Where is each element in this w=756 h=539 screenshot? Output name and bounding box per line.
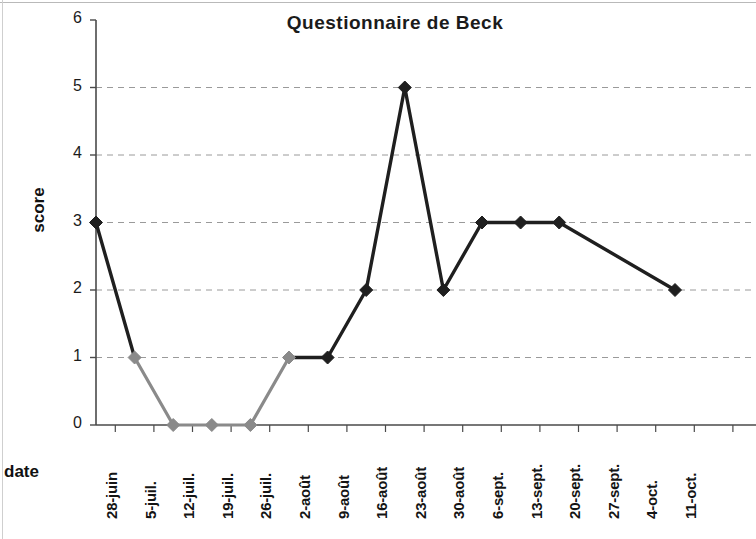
y-tick-label: 1: [56, 347, 82, 365]
data-point-marker: [514, 216, 527, 229]
x-axis-title: date: [4, 462, 39, 482]
data-point-marker: [90, 216, 103, 229]
x-tick-label: 16-août: [373, 467, 390, 519]
y-tick-label: 3: [56, 212, 82, 230]
x-tick-label: 26-juil.: [257, 473, 274, 519]
series-segment: [366, 88, 405, 291]
x-tick-label: 5-juil.: [142, 481, 159, 519]
x-tick-label: 23-août: [412, 467, 429, 519]
x-tick-label: 4-oct.: [643, 480, 660, 519]
y-axis-title: score: [29, 165, 49, 255]
plot-area: [0, 0, 756, 539]
data-point-marker: [283, 351, 296, 364]
chart-canvas: Questionnaire de Beck score date 0123456…: [0, 0, 756, 539]
data-point-marker: [128, 351, 141, 364]
y-tick-label: 6: [56, 9, 82, 27]
series-segment: [328, 290, 367, 358]
y-tick-label: 2: [56, 279, 82, 297]
chart-title: Questionnaire de Beck: [230, 12, 560, 34]
y-tick-label: 5: [56, 77, 82, 95]
x-tick-label: 9-août: [335, 475, 352, 519]
data-point-marker: [167, 419, 180, 432]
series-segment: [559, 223, 675, 291]
x-tick-label: 27-sept.: [605, 464, 622, 519]
x-tick-label: 12-juil.: [180, 473, 197, 519]
x-tick-label: 20-sept.: [566, 464, 583, 519]
y-tick-label: 0: [56, 414, 82, 432]
x-tick-label: 19-juil.: [219, 473, 236, 519]
data-point-marker: [398, 81, 411, 94]
series-segment: [135, 358, 174, 426]
series-segment: [250, 358, 289, 426]
data-point-marker: [244, 419, 257, 432]
data-point-marker: [205, 419, 218, 432]
x-tick-label: 2-août: [296, 475, 313, 519]
data-line-series: [96, 88, 675, 426]
data-point-markers: [90, 81, 682, 432]
x-tick-label: 6-sept.: [489, 472, 506, 519]
x-tick-label: 28-juin: [103, 472, 120, 519]
x-tick-label: 11-oct.: [682, 473, 699, 519]
x-tick-label: 13-sept.: [528, 464, 545, 519]
y-tick-label: 4: [56, 144, 82, 162]
x-tick-label: 30-août: [450, 467, 467, 519]
gridlines: [96, 88, 756, 358]
series-segment: [405, 88, 444, 291]
series-segment: [443, 223, 482, 291]
